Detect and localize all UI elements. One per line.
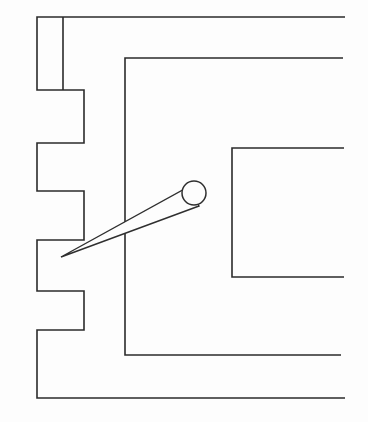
- line-drawing-svg: [0, 0, 368, 422]
- leader-pointer-cone: [61, 186, 199, 257]
- drawing-canvas: [0, 0, 368, 422]
- right-room-outline: [232, 148, 344, 277]
- pointer-head-circle: [182, 181, 206, 205]
